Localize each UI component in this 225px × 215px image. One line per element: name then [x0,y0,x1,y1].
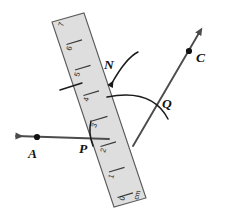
geometry-diagram: 0 1 2 3 4 5 6 7 cm [0,0,225,215]
label-point-n: N [103,57,115,72]
ruler: 0 1 2 3 4 5 6 7 cm [52,13,146,207]
label-point-c: C [196,50,206,65]
pointer-arrow-n [112,52,138,83]
label-point-p: P [79,141,88,156]
label-point-q: Q [162,96,172,111]
figure-canvas: 0 1 2 3 4 5 6 7 cm [0,0,225,215]
point-c-dot [186,48,192,54]
point-a-dot [34,134,40,140]
label-point-a: A [27,146,37,161]
ruler-outline [52,13,146,207]
ray-to-c [133,33,199,146]
